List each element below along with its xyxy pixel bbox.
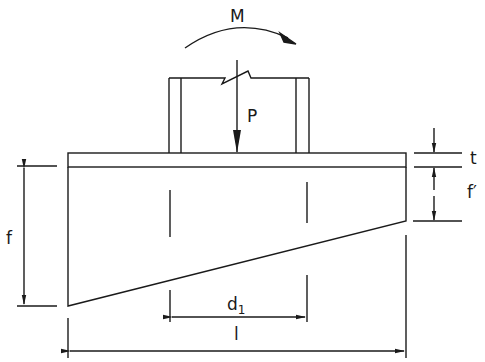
- label-moment: M: [230, 8, 245, 25]
- label-d-subscript: 1: [238, 303, 246, 317]
- diagram-canvas: M P t f′ f d1 l: [0, 0, 485, 362]
- label-plate-thickness: t: [470, 150, 477, 167]
- footing-wedge: [68, 167, 406, 306]
- label-depth-total: f: [6, 230, 12, 247]
- label-axial-load: P: [247, 108, 257, 125]
- label-d: d: [227, 294, 238, 314]
- label-length: l: [234, 326, 239, 343]
- label-depth-edge: f′: [467, 184, 477, 201]
- label-column-spacing: d1: [227, 296, 245, 313]
- moment-arrowhead: [280, 33, 296, 44]
- moment-arc: [185, 28, 288, 48]
- base-plate: [68, 153, 406, 167]
